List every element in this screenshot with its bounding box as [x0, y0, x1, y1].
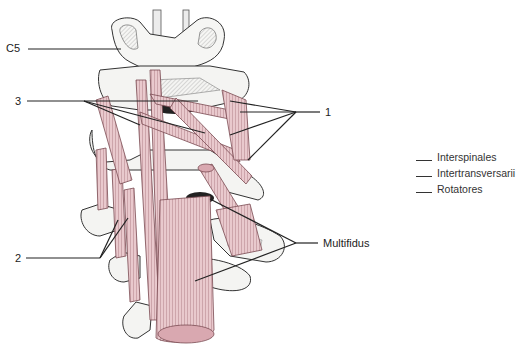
legend-text: Interspinales — [437, 151, 497, 163]
legend-item-rotatores: Rotatores — [416, 181, 515, 197]
label-1: 1 — [325, 106, 331, 118]
label-2: 2 — [15, 252, 21, 264]
legend-text: Rotatores — [437, 183, 483, 195]
legend-item-intertransversarii: Intertransversarii — [416, 165, 515, 181]
legend-line — [416, 160, 432, 161]
label-3: 3 — [15, 95, 21, 107]
legend-text: Intertransversarii — [437, 167, 515, 179]
label-multifidus: Multifidus — [323, 237, 369, 249]
label-c5: C5 — [6, 42, 20, 54]
legend-item-interspinales: Interspinales — [416, 149, 515, 165]
anatomy-figure: C5 3 1 2 Multifidus Interspinales Intert… — [0, 0, 529, 352]
legend: Interspinales Intertransversarii Rotator… — [416, 149, 515, 197]
legend-line — [416, 192, 432, 193]
legend-line — [416, 176, 432, 177]
vertebra-c5 — [112, 18, 225, 72]
